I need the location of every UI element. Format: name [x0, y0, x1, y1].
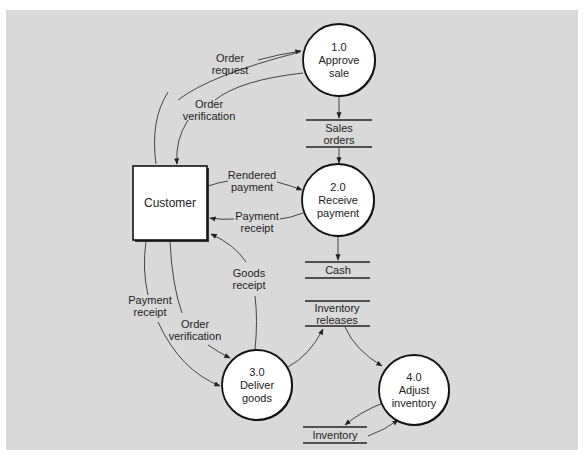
process-3-deliver-goods: 3.0 Deliver goods [222, 350, 293, 421]
process-label: Approve [319, 54, 360, 66]
process-label: Adjust [399, 384, 430, 396]
data-store-label: releases [316, 314, 358, 326]
flow-p3-to-inventory-releases [288, 329, 323, 367]
process-1-approve-sale: 1.0 Approve sale [303, 24, 376, 97]
entity-customer: Customer [133, 166, 209, 242]
flow-label-order-verification-top: Order verification [183, 98, 236, 122]
flow-label-goods-receipt: Goods receipt [232, 267, 265, 291]
svg-text:receipt: receipt [232, 279, 265, 291]
data-store-cash: Cash [305, 262, 370, 278]
svg-text:verification: verification [169, 330, 222, 342]
flow-payment-receipt-right [280, 213, 303, 219]
svg-text:Order: Order [216, 52, 244, 64]
data-store-label: Cash [325, 264, 351, 276]
flow-label-payment-receipt-left: Payment receipt [128, 294, 171, 318]
process-4-adjust-inventory: 4.0 Adjust inventory [379, 355, 450, 426]
process-label: Deliver [240, 379, 275, 391]
process-label: Receive [318, 194, 358, 206]
process-label: goods [242, 392, 272, 404]
svg-text:payment: payment [231, 181, 273, 193]
svg-text:Rendered: Rendered [228, 169, 276, 181]
flow-order-verification-top [215, 73, 303, 100]
flow-label-payment-receipt-right: Payment receipt [235, 210, 278, 234]
entity-label: Customer [144, 196, 196, 210]
flow-order-verification-bottom [170, 241, 182, 313]
data-store-label: Inventory [312, 429, 358, 441]
svg-text:verification: verification [183, 110, 236, 122]
process-number: 1.0 [331, 41, 346, 53]
svg-text:receipt: receipt [240, 222, 273, 234]
svg-text:Payment: Payment [235, 210, 278, 222]
svg-text:request: request [212, 64, 249, 76]
flow-payment-receipt-left [144, 241, 148, 295]
process-number: 4.0 [406, 371, 421, 383]
flow-inventory-to-p4 [368, 420, 398, 436]
svg-text:receipt: receipt [133, 306, 166, 318]
flow-goods-receipt [255, 296, 257, 350]
flow-rendered-payment [208, 181, 228, 186]
svg-text:Goods: Goods [233, 267, 266, 279]
process-number: 3.0 [249, 366, 264, 378]
data-store-label: orders [323, 134, 355, 146]
data-store-inventory-releases: Inventory releases [305, 301, 370, 326]
process-number: 2.0 [330, 181, 345, 193]
data-store-label: Inventory [314, 302, 360, 314]
process-2-receive-payment: 2.0 Receive payment [302, 164, 375, 237]
process-label: inventory [392, 397, 437, 409]
svg-text:Order: Order [195, 98, 223, 110]
data-store-inventory: Inventory [303, 427, 367, 443]
process-label: sale [329, 67, 349, 79]
data-flow-diagram: Sales orders Cash Inventory releases Inv… [0, 0, 584, 458]
flow-inventory-releases-to-p4 [345, 327, 382, 366]
data-store-label: Sales [325, 122, 353, 134]
flow-p4-to-inventory [345, 403, 383, 425]
flow-label-rendered-payment: Rendered payment [228, 169, 276, 193]
process-label: payment [317, 207, 359, 219]
svg-text:Payment: Payment [128, 294, 171, 306]
flow-label-order-verification-bottom: Order verification [169, 318, 222, 342]
svg-text:Order: Order [181, 318, 209, 330]
flow-label-order-request: Order request [212, 52, 249, 76]
data-store-sales-orders: Sales orders [306, 120, 372, 147]
